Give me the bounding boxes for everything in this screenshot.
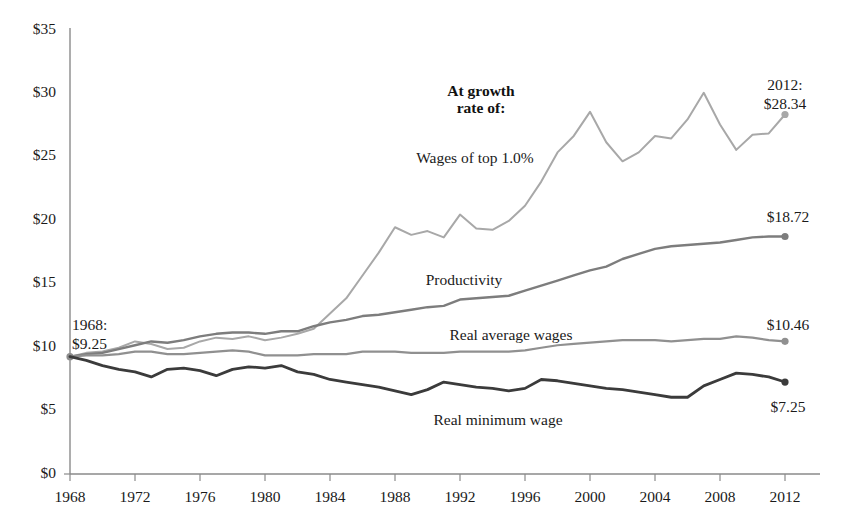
- y-axis-tick-label: $35: [33, 20, 57, 37]
- x-axis-tick-label: 2004: [640, 488, 671, 505]
- x-axis-ticks: 1968197219761980198419881992199620002004…: [55, 474, 801, 505]
- top1-end-label-line1: 2012:: [767, 76, 802, 93]
- top1-end-label-line2: $28.34: [764, 95, 807, 112]
- x-axis-tick-label: 1984: [315, 488, 346, 505]
- wage-growth-chart: $0$5$10$15$20$25$30$35 19681972197619801…: [0, 0, 842, 521]
- growth-rate-header-line2: rate of:: [457, 99, 506, 116]
- x-axis-tick-label: 1976: [185, 488, 216, 505]
- growth-rate-header-line1: At growth: [447, 82, 515, 99]
- y-axis-tick-label: $15: [33, 273, 57, 290]
- endpoint-dot-productivity: [781, 233, 788, 240]
- productivity-end-label: $18.72: [767, 208, 810, 225]
- y-axis-tick-label: $30: [33, 83, 57, 100]
- x-axis-tick-label: 2000: [575, 488, 606, 505]
- x-axis-tick-label: 2008: [705, 488, 736, 505]
- y-axis-tick-label: $20: [33, 210, 57, 227]
- endpoint-dot-real-minimum-wage: [781, 378, 788, 385]
- real-minimum-wage-series-label: Real minimum wage: [433, 411, 562, 428]
- top1-series-label: Wages of top 1.0%: [416, 149, 534, 166]
- productivity-series-label: Productivity: [426, 271, 503, 288]
- x-axis-tick-label: 1980: [250, 488, 281, 505]
- series-line-real-average-wages: [70, 336, 785, 356]
- x-axis-tick-label: 2012: [770, 488, 801, 505]
- x-axis-tick-label: 1996: [510, 488, 541, 505]
- series-group: [66, 93, 788, 397]
- endpoint-dot-real-average-wages: [781, 338, 788, 345]
- x-axis-tick-label: 1992: [445, 488, 476, 505]
- x-axis-tick-label: 1972: [120, 488, 151, 505]
- real-average-wages-end-label: $10.46: [767, 316, 810, 333]
- y-axis-tick-label: $5: [41, 400, 57, 417]
- y-axis-tick-label: $25: [33, 146, 57, 163]
- x-axis-tick-label: 1968: [55, 488, 86, 505]
- real-average-wages-series-label: Real average wages: [449, 326, 572, 343]
- series-line-productivity: [70, 237, 785, 357]
- chart-canvas: $0$5$10$15$20$25$30$35 19681972197619801…: [0, 0, 842, 521]
- real-minimum-wage-end-label: $7.25: [771, 398, 806, 415]
- x-axis-tick-label: 1988: [380, 488, 411, 505]
- y-axis-tick-label: $0: [41, 464, 57, 481]
- start-value-label-line1: 1968:: [72, 316, 107, 333]
- start-value-label-line2: $9.25: [72, 335, 107, 352]
- y-axis-ticks: $0$5$10$15$20$25$30$35: [33, 20, 70, 481]
- series-line-real-minimum-wage: [70, 357, 785, 398]
- y-axis-tick-label: $10: [33, 337, 57, 354]
- series-line-wages-of-top-1-0: [70, 93, 785, 357]
